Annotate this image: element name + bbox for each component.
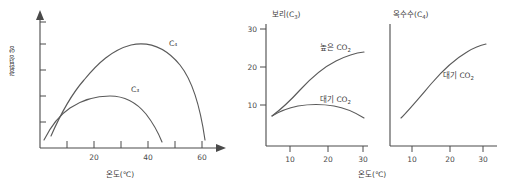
photosynthesis-temperature-figure: 광합성 양 xyxy=(0,0,505,185)
middle-x-ticks xyxy=(290,146,363,152)
right-panel-title-close: ) xyxy=(426,10,429,19)
middle-xtick-label-20: 20 xyxy=(323,155,333,164)
middle-curve-high-co2 xyxy=(272,52,364,116)
left-curve-c4 xyxy=(51,44,205,140)
left-x-ticks xyxy=(67,141,202,148)
middle-xtick-label-10: 10 xyxy=(285,155,295,164)
middle-curve-label-high-main: 높은 CO xyxy=(320,43,348,52)
left-curve-label-c4: C₄ xyxy=(169,39,177,48)
left-chart-svg: 20 40 60 C₄ C₃ 온도(℃) xyxy=(0,0,240,185)
left-y-axis-title: 광합성 양 xyxy=(9,46,21,76)
middle-curve-label-high-sub: 2 xyxy=(348,47,351,53)
middle-curve-label-ambient-co2: 대기 CO2 xyxy=(320,95,351,105)
middle-ytick-label-20: 20 xyxy=(247,63,257,72)
left-xtick-label-40: 40 xyxy=(143,153,153,162)
shared-x-axis-title: 온도(℃) xyxy=(358,168,386,179)
left-curve-label-c3: C₃ xyxy=(131,85,139,94)
middle-curve-label-ambient-sub: 2 xyxy=(348,99,351,105)
left-y-ticks xyxy=(40,22,46,122)
middle-chart-svg: 보리(C3) 30 20 10 10 20 30 xyxy=(240,0,385,185)
middle-panel-title-close: ) xyxy=(298,10,301,19)
middle-curve-label-high-co2: 높은 CO2 xyxy=(320,43,351,53)
middle-curve-ambient-co2 xyxy=(272,105,364,119)
right-xtick-label-30: 30 xyxy=(478,155,488,164)
middle-panel-title: 보리(C3) xyxy=(272,10,301,20)
right-panel-title: 옥수수(C4) xyxy=(393,10,429,20)
right-xtick-label-20: 20 xyxy=(445,155,455,164)
chart-panel-right: 옥수수(C4) 10 20 30 대기 CO2 xyxy=(385,0,505,185)
right-x-ticks xyxy=(412,146,483,152)
middle-y-ticks xyxy=(260,29,266,105)
left-x-axis-arrowhead xyxy=(216,144,226,152)
middle-ytick-label-30: 30 xyxy=(247,25,257,34)
chart-panel-left: 광합성 양 xyxy=(0,0,240,185)
right-panel-title-main: 옥수수(C xyxy=(393,10,422,19)
left-y-axis-arrowhead xyxy=(36,10,44,20)
left-xtick-label-20: 20 xyxy=(89,153,99,162)
left-curve-c3 xyxy=(44,96,162,142)
right-curve-label-ambient-sub: 2 xyxy=(471,75,474,81)
middle-ytick-label-10: 10 xyxy=(247,101,257,110)
right-curve-label-ambient-main: 대기 CO xyxy=(443,71,471,80)
middle-xtick-label-30: 30 xyxy=(358,155,368,164)
right-xtick-label-10: 10 xyxy=(407,155,417,164)
left-xtick-label-60: 60 xyxy=(197,153,207,162)
right-curve-label-ambient-co2: 대기 CO2 xyxy=(443,71,474,81)
right-curve-ambient-co2 xyxy=(401,44,486,118)
middle-panel-title-main: 보리(C xyxy=(272,10,294,19)
right-chart-svg: 옥수수(C4) 10 20 30 대기 CO2 xyxy=(385,0,505,185)
chart-panel-middle: 보리(C3) 30 20 10 10 20 30 xyxy=(240,0,385,185)
left-x-axis-title: 온도(℃) xyxy=(106,170,134,179)
middle-curve-label-ambient-main: 대기 CO xyxy=(320,95,348,104)
